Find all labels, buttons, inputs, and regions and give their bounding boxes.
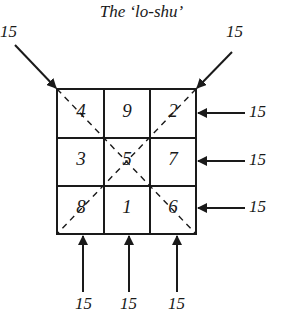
sum-label-col-2: 15 — [120, 294, 137, 314]
sum-label-diagonal-right: 15 — [226, 22, 243, 42]
arrow-diagonal-right — [197, 52, 232, 88]
cell-r2c2: 5 — [104, 148, 150, 170]
sum-label-diagonal-left: 15 — [0, 22, 17, 42]
cell-r3c1: 8 — [58, 196, 104, 218]
sum-label-row-1: 15 — [249, 102, 266, 122]
sum-label-col-1: 15 — [75, 294, 92, 314]
cell-r3c3: 6 — [150, 196, 196, 218]
sum-label-row-2: 15 — [249, 150, 266, 170]
sum-label-row-3: 15 — [249, 197, 266, 217]
cell-r2c3: 7 — [150, 148, 196, 170]
cell-r1c2: 9 — [104, 100, 150, 122]
cell-r2c1: 3 — [58, 148, 104, 170]
arrow-diagonal-left — [15, 45, 56, 88]
cell-r3c2: 1 — [104, 196, 150, 218]
cell-r1c1: 4 — [58, 100, 104, 122]
cell-r1c3: 2 — [150, 100, 196, 122]
sum-label-col-3: 15 — [168, 294, 185, 314]
